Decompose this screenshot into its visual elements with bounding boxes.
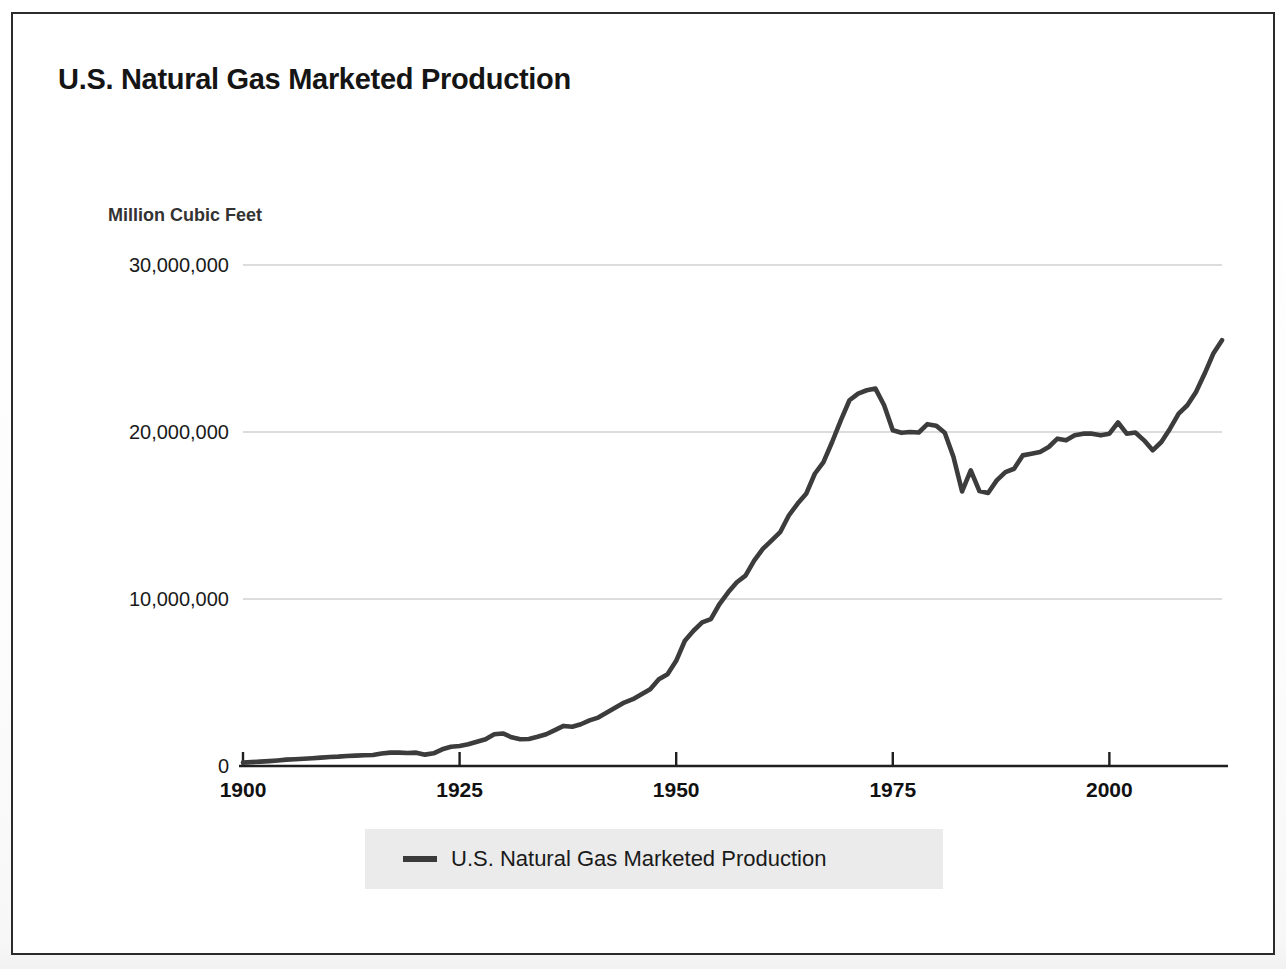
- x-axis-tick-label: 1975: [869, 778, 916, 802]
- scanned-page: U.S. Natural Gas Marketed Production Mil…: [0, 0, 1286, 969]
- x-axis-tick-label: 1950: [653, 778, 700, 802]
- series-line: [243, 340, 1222, 763]
- x-axis-tick-label: 1900: [220, 778, 267, 802]
- x-axis-tick-label: 2000: [1086, 778, 1133, 802]
- data-series: [243, 340, 1222, 763]
- x-axis-tick-label: 1925: [436, 778, 483, 802]
- legend-series-label: U.S. Natural Gas Marketed Production: [451, 846, 826, 872]
- y-axis-tick-label: 10,000,000: [0, 588, 229, 611]
- y-axis-tick-label: 0: [0, 755, 229, 778]
- y-axis-tick-label: 20,000,000: [0, 421, 229, 444]
- legend-line-swatch-icon: [403, 856, 437, 862]
- gridlines: [243, 265, 1222, 599]
- chart-plot-area: [0, 0, 1286, 969]
- chart-legend[interactable]: U.S. Natural Gas Marketed Production: [365, 829, 943, 889]
- y-axis-tick-label: 30,000,000: [0, 254, 229, 277]
